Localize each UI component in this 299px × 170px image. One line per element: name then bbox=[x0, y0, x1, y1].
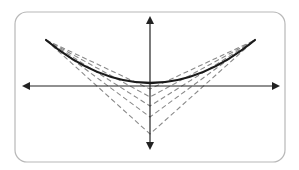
diagram-canvas bbox=[0, 0, 299, 170]
catenary-envelope-diagram bbox=[0, 0, 299, 170]
